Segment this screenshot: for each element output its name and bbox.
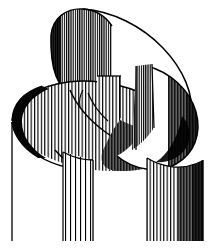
lower-left-cylinder-wall [60, 150, 96, 245]
cropped-caption-text [0, 242, 213, 251]
lower-right-cylinder-wall [143, 155, 207, 245]
interlocking-cylinders-illustration [0, 0, 213, 251]
figure-container [0, 0, 213, 251]
